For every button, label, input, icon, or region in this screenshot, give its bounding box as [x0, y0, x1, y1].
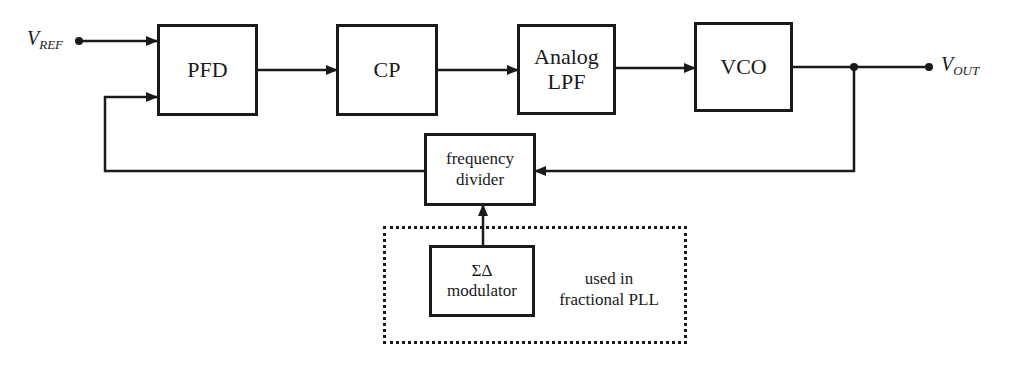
vco-block: VCO — [694, 22, 793, 112]
modulator-label: ΣΔ modulator — [447, 261, 517, 302]
pfd-block: PFD — [157, 24, 258, 116]
divider-label: frequency divider — [446, 149, 514, 190]
analog-lpf-block: Analog LPF — [517, 24, 616, 115]
cp-label: CP — [374, 58, 401, 82]
fractional-pll-note: used in fractional PLL — [550, 268, 668, 311]
pfd-label: PFD — [187, 58, 227, 82]
output-junction-dot — [850, 63, 858, 71]
vout-label: VOUT — [941, 53, 979, 79]
sigma-delta-modulator-block: ΣΔ modulator — [429, 245, 535, 317]
vref-label: VREF — [27, 27, 63, 53]
vco-label: VCO — [720, 55, 766, 79]
vref-terminal-dot — [75, 37, 83, 45]
charge-pump-block: CP — [336, 24, 438, 116]
lpf-label: Analog LPF — [534, 45, 599, 93]
frequency-divider-block: frequency divider — [424, 133, 536, 206]
vout-terminal-dot — [925, 63, 933, 71]
